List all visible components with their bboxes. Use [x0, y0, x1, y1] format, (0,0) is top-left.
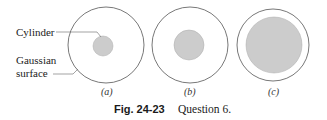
panel-label-c: (c): [268, 86, 280, 98]
gaussian-leader-line: [53, 69, 78, 74]
gaussian-surface-label-line1: Gaussian: [16, 54, 57, 66]
cylinder-b: [174, 30, 204, 60]
panel-c: (c): [237, 9, 309, 98]
cylinder-c: [246, 17, 302, 73]
cylinder-label: Cylinder: [16, 26, 55, 38]
cylinder-a: [93, 36, 113, 56]
panel-label-b: (b): [184, 86, 196, 98]
gaussian-surface-label-line2: surface: [16, 67, 48, 79]
figure-number: Fig. 24-23: [114, 103, 165, 115]
panel-b: (b): [152, 7, 228, 98]
cylinder-leader-line: [56, 32, 101, 37]
panel-a: (a): [68, 7, 144, 98]
figure-caption: Question 6.: [178, 103, 231, 115]
gaussian-surface-figure: (a) (b) (c) Cylinder Gaussian surface Fi…: [0, 0, 327, 120]
panel-label-a: (a): [101, 86, 113, 98]
